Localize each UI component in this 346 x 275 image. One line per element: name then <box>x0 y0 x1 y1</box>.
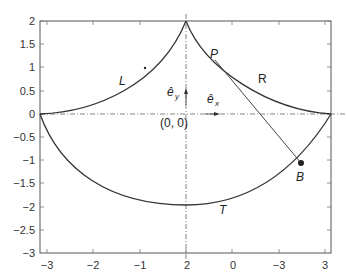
unit-vector-ex-arrow <box>205 112 220 116</box>
label-ey: ê y <box>167 85 180 101</box>
svg-text:−2: −2 <box>22 201 35 213</box>
svg-text:2: 2 <box>29 15 35 27</box>
small-dot <box>144 67 146 69</box>
svg-text:ê: ê <box>207 92 214 106</box>
svg-text:1: 1 <box>29 61 35 73</box>
svg-text:0.5: 0.5 <box>20 85 35 97</box>
label-ex: ê x <box>207 92 220 108</box>
label-P: P <box>210 47 218 61</box>
label-T: T <box>219 203 228 217</box>
svg-text:ê: ê <box>167 85 174 99</box>
svg-text:−2: −2 <box>87 259 100 271</box>
svg-text:−3: −3 <box>22 247 35 259</box>
svg-text:−1.5: −1.5 <box>13 177 35 189</box>
svg-text:2: 2 <box>184 259 190 271</box>
curve-L <box>40 21 186 114</box>
svg-text:3: 3 <box>322 259 328 271</box>
y-tick-labels: 2 1.5 1 0.5 0 −0.5 −1 −1.5 −2 −2.5 −3 <box>13 15 35 259</box>
label-R: R <box>258 72 267 86</box>
point-B <box>298 160 304 166</box>
svg-text:−1: −1 <box>134 259 147 271</box>
svg-text:−1: −1 <box>22 154 35 166</box>
plot-frame <box>40 21 331 253</box>
svg-text:−0.5: −0.5 <box>13 131 35 143</box>
label-L: L <box>119 74 126 88</box>
cusp-diagram: 2 1.5 1 0.5 0 −0.5 −1 −1.5 −2 −2.5 −3 −3… <box>0 0 346 275</box>
svg-text:1.5: 1.5 <box>20 38 35 50</box>
svg-text:−3: −3 <box>273 259 286 271</box>
label-origin: (0, 0) <box>160 116 188 130</box>
x-tick-labels: −3 −2 −1 2 0 −3 3 <box>41 259 328 271</box>
svg-text:y: y <box>174 92 180 101</box>
svg-text:−2.5: −2.5 <box>13 224 35 236</box>
label-B: B <box>296 170 304 184</box>
svg-text:0: 0 <box>29 108 35 120</box>
svg-text:−3: −3 <box>41 259 54 271</box>
svg-text:x: x <box>214 99 220 108</box>
svg-text:0: 0 <box>230 259 236 271</box>
unit-vector-ey-arrow <box>184 88 188 105</box>
